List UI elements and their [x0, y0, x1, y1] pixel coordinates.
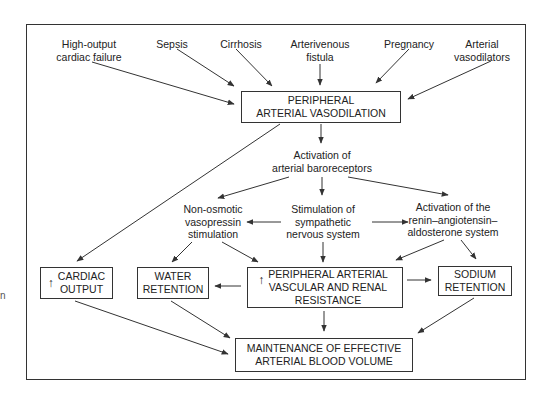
arrow-raas-to-pavrr — [396, 240, 444, 260]
box-peripheral-vascular-renal-resistance: ↑ PERIPHERAL ARTERIAL VASCULAR AND RENAL… — [247, 267, 403, 308]
arrow-sepsis-to-vasodilation — [177, 49, 234, 86]
arrow-hocf-to-vasodilation — [92, 62, 234, 104]
arrow-vasodilation-to-cardiac-output — [77, 124, 280, 261]
cause-pregnancy: Pregnancy — [384, 38, 434, 51]
arrow-baro-to-vasopressin — [218, 177, 289, 198]
arrow-pregnancy-to-vasodilation — [376, 49, 409, 83]
up-arrow-icon: ↑ — [48, 277, 54, 289]
cause-arterivenous-fistula: Arterivenous fistula — [291, 38, 350, 63]
box-cardiac-output: ↑ CARDIAC OUTPUT — [40, 267, 113, 299]
arrow-baro-to-raas — [348, 177, 448, 195]
cause-high-output-cardiac-failure: High-output cardiac failure — [56, 38, 121, 63]
node-raas-activation: Activation of the renin–angiotensin– ald… — [407, 201, 498, 239]
box-maintenance-effective-arterial-blood-volume: MAINTENANCE OF EFFECTIVE ARTERIAL BLOOD … — [235, 338, 413, 372]
arrow-vasopressin-to-water — [172, 242, 192, 262]
diagram-canvas: n — [0, 0, 551, 399]
arrow-vasopressin-to-pavrr — [222, 242, 258, 262]
arrow-sodium-to-outcome — [418, 298, 474, 333]
arrow-raas-to-sodium — [461, 240, 476, 259]
cause-cirrhosis: Cirrhosis — [220, 38, 261, 51]
up-arrow-icon: ↑ — [258, 274, 264, 286]
node-sympathetic-stimulation: Stimulation of sympathetic nervous syste… — [286, 203, 360, 241]
arrow-water-to-outcome — [171, 301, 230, 338]
arrow-vasodilators-to-vasodilation — [408, 61, 491, 99]
cause-arterial-vasodilators: Arterial vasodilators — [454, 38, 510, 63]
node-baroreceptor-activation: Activation of arterial baroreceptors — [272, 149, 372, 174]
arrow-cardiac-to-outcome — [75, 301, 228, 354]
box-sodium-retention: SODIUM RETENTION — [438, 266, 512, 296]
box-peripheral-arterial-vasodilation: PERIPHERAL ARTERIAL VASODILATION — [241, 91, 401, 123]
cause-sepsis: Sepsis — [156, 38, 188, 51]
arrow-cirrhosis-to-vasodilation — [236, 49, 272, 86]
box-water-retention: WATER RETENTION — [137, 267, 209, 299]
node-non-osmotic-vasopressin: Non-osmotic vasopressin stimulation — [184, 203, 243, 241]
